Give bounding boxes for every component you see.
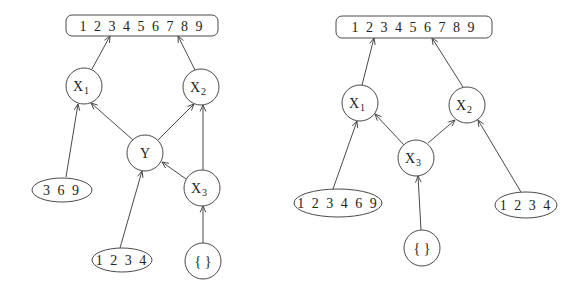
left-lattice-nodes: 1 2 3 4 5 6 7 8 9X1X2YX33 6 91 2 3 4{ } (32, 15, 221, 279)
edge-line (66, 104, 78, 177)
edge-empty-to-x3 (200, 206, 206, 243)
edge-x1-to-top (92, 36, 110, 69)
node-s123469: 1 2 3 4 6 9 (294, 189, 382, 217)
edge-line (362, 38, 374, 85)
edge-line (428, 120, 455, 143)
node-top: 1 2 3 4 5 6 7 8 9 (66, 15, 218, 36)
nodes-layer: 1 2 3 4 5 6 7 8 9X1X2YX33 6 91 2 3 4{ }1… (32, 15, 557, 279)
node-subscript: 1 (84, 85, 89, 96)
edge-s369-to-x1 (66, 104, 80, 177)
node-x3: X3 (398, 140, 434, 176)
node-label: 1 2 3 4 (500, 198, 553, 213)
edge-y-to-x2 (158, 104, 194, 140)
edge-line (91, 103, 133, 140)
node-label: { } (195, 254, 212, 269)
edge-x3-to-x1 (375, 114, 404, 145)
node-label: 1 2 3 4 (96, 253, 149, 268)
node-subscript: 1 (360, 102, 365, 113)
edge-line (478, 120, 521, 192)
lattice-diagrams: 1 2 3 4 5 6 7 8 9X1X2YX33 6 91 2 3 4{ }1… (0, 0, 583, 288)
node-s369: 3 6 9 (32, 178, 92, 202)
edge-empty-to-x3 (416, 176, 422, 230)
edge-x3-to-x2 (200, 105, 206, 170)
edge-s123469-to-x1 (333, 121, 358, 189)
node-label: 3 6 9 (43, 183, 81, 198)
node-subscript: 3 (202, 187, 207, 198)
node-subscript: 3 (416, 157, 421, 168)
right-lattice-nodes: 1 2 3 4 5 6 7 8 9X1X2X31 2 3 4 6 91 2 3 … (294, 16, 557, 266)
arrowhead-icon (432, 38, 438, 45)
node-label: 1 2 3 4 5 6 7 8 9 (80, 19, 205, 34)
edge-line (333, 121, 357, 189)
node-subscript: 2 (467, 104, 472, 115)
node-label: 1 2 3 4 5 6 7 8 9 (352, 20, 477, 35)
node-x2: X2 (449, 87, 485, 123)
edge-s1234-to-y (120, 171, 143, 248)
edge-x1-to-top (362, 38, 375, 85)
edge-line (418, 176, 421, 230)
edge-line (158, 104, 194, 140)
node-x3: X3 (184, 170, 220, 206)
node-s1234: 1 2 3 4 (92, 248, 152, 272)
node-x1: X1 (342, 85, 378, 121)
node-label: { } (414, 241, 431, 256)
arrowhead-icon (478, 120, 484, 127)
node-empty: { } (185, 243, 221, 279)
node-subscript: 2 (201, 86, 206, 97)
edge-s1234-to-x2 (478, 120, 521, 192)
node-top: 1 2 3 4 5 6 7 8 9 (336, 16, 492, 38)
node-x2: X2 (183, 69, 219, 105)
node-label: 1 2 3 4 6 9 (297, 196, 379, 211)
edge-line (120, 171, 142, 248)
edge-x2-to-top (432, 38, 463, 87)
edge-line (178, 36, 195, 70)
node-y: Y (127, 135, 163, 171)
edge-line (375, 114, 404, 145)
edge-line (162, 162, 186, 179)
edge-line (92, 36, 110, 69)
node-label: Y (140, 146, 150, 161)
edge-x3-to-y (162, 162, 186, 179)
edge-x2-to-top (178, 36, 195, 70)
edge-x3-to-x2 (428, 120, 455, 143)
node-s1234: 1 2 3 4 (495, 192, 557, 218)
node-x1: X1 (66, 68, 102, 104)
node-empty: { } (404, 230, 440, 266)
edge-line (432, 38, 463, 87)
edge-y-to-x1 (91, 103, 133, 140)
